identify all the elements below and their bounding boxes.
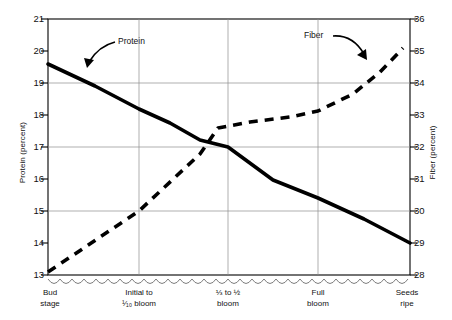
- annotation-arrow-protein-shaft: [89, 42, 115, 62]
- chart-figure: Protein (percent) Fiber (percent) 21 20 …: [0, 0, 452, 320]
- annotation-arrow-protein: [84, 42, 115, 68]
- series-line-fiber: [48, 48, 403, 272]
- annotation-arrow-fiber: [333, 36, 367, 60]
- axis-break-wavy-line: [48, 279, 408, 284]
- y-axis-right-ticks: [410, 19, 417, 275]
- chart-plot-area: [0, 0, 452, 320]
- y-axis-left-ticks: [41, 19, 48, 275]
- annotation-arrow-protein-head: [84, 58, 94, 68]
- annotation-arrow-fiber-shaft: [333, 36, 364, 54]
